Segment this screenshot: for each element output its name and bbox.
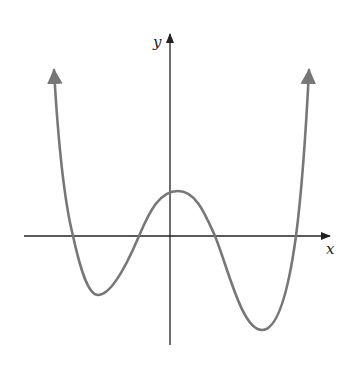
- y-axis-label: y: [152, 33, 162, 51]
- polynomial-curve: [54, 70, 309, 330]
- polynomial-graph: y x: [0, 0, 356, 368]
- x-axis-label: x: [326, 240, 335, 258]
